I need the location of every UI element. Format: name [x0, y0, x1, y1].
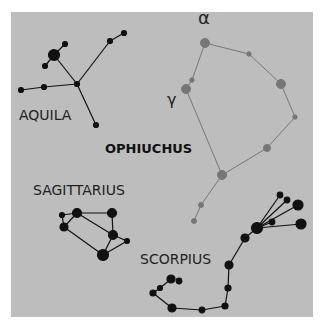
ophiuchus-label: OPHIUCHUS: [105, 141, 192, 156]
sagittarius-constellation: [60, 209, 130, 261]
gamma-label: γ: [167, 90, 176, 109]
aquila-label: AQUILA: [19, 107, 72, 123]
scorpius-label: SCORPIUS: [140, 251, 211, 267]
constellation-diagram: AQUILA α γ OPHIUCHUS: [0, 0, 324, 328]
sagittarius-label: SAGITTARIUS: [33, 182, 125, 198]
alpha-label: α: [198, 7, 210, 28]
